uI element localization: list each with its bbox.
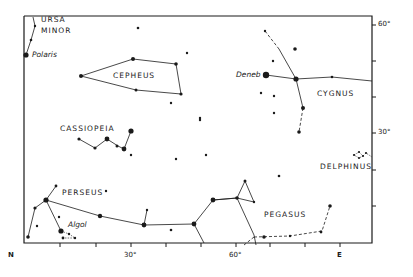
constellation-label-delphinus: DELPHINUS [320, 162, 372, 171]
constellation-label-cygnus: CYGNUS [317, 89, 354, 98]
star-label-deneb: Deneb [236, 70, 261, 79]
constellation-label-pegasus: PEGASUS [264, 210, 306, 219]
constellation-label-minor: MINOR [41, 26, 71, 35]
star-label-polaris: Polaris [32, 50, 57, 59]
constellation-label-cepheus: CEPHEUS [113, 71, 155, 80]
pegasus-lines [213, 198, 237, 200]
axis-label-30-right: 30° [378, 128, 390, 136]
star-chart [0, 0, 413, 277]
constellation-label-ursa: URSA [41, 15, 66, 24]
constellation-label-perseus: PERSEUS [62, 188, 103, 197]
cygnus-lines [265, 31, 372, 132]
axis-label-e: E [337, 251, 342, 259]
delphinus-stars [353, 151, 367, 159]
star-label-algol: Algol [68, 220, 87, 229]
axis-label-30-bottom: 30° [124, 251, 136, 259]
axis-label-60-bottom: 60° [229, 251, 241, 259]
axis-label-n: N [8, 251, 14, 259]
constellation-label-cassiopeia: CASSIOPEIA [60, 124, 115, 133]
axis-label-60-right: 60° [378, 20, 390, 28]
